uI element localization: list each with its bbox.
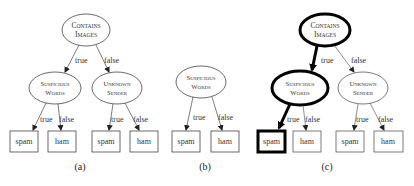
svg-text:SUSPICIOUS: SUSPICIOUS bbox=[41, 80, 70, 87]
svg-text:ham: ham bbox=[381, 137, 396, 146]
edge-label-false: false bbox=[104, 56, 120, 65]
node-unknown-sender: UNKNOWN SENDER bbox=[92, 72, 142, 104]
svg-text:SUSPICIOUS: SUSPICIOUS bbox=[286, 80, 315, 87]
edge-label-false: false bbox=[59, 115, 75, 124]
leaf-ham: ham bbox=[293, 131, 321, 152]
panel-label-c: (c) bbox=[321, 161, 332, 173]
edge-label-false: false bbox=[218, 113, 234, 122]
node-contains-images-highlighted: CONTAINS IMAGES bbox=[300, 14, 350, 46]
edge-label-true: true bbox=[356, 115, 369, 124]
leaf-spam: spam bbox=[92, 131, 120, 152]
node-suspicious-words-highlighted: SUSPICIOUS WORDS bbox=[272, 71, 328, 105]
leaf-spam-highlighted: spam bbox=[258, 131, 285, 152]
svg-text:WORDS: WORDS bbox=[191, 83, 211, 90]
edge-label-false: false bbox=[378, 115, 394, 124]
edge-label-true: true bbox=[193, 113, 206, 122]
svg-text:ham: ham bbox=[300, 137, 315, 146]
leaf-ham: ham bbox=[211, 131, 239, 152]
edge-label-true: true bbox=[40, 115, 53, 124]
panel-label-a: (a) bbox=[74, 161, 85, 173]
edge-label-true: true bbox=[321, 56, 334, 65]
node-suspicious-words: SUSPICIOUS WORDS bbox=[176, 66, 226, 98]
leaf-spam: spam bbox=[172, 131, 200, 152]
leaf-ham: ham bbox=[374, 131, 403, 152]
svg-text:ham: ham bbox=[218, 137, 233, 146]
svg-text:ham: ham bbox=[55, 137, 70, 146]
leaf-ham: ham bbox=[130, 131, 158, 152]
svg-text:CONTAINS: CONTAINS bbox=[310, 21, 339, 30]
leaf-spam: spam bbox=[10, 131, 38, 152]
edge-label-true: true bbox=[287, 115, 300, 124]
leaf-ham: ham bbox=[48, 131, 76, 152]
svg-text:spam: spam bbox=[98, 137, 116, 146]
panel-a: CONTAINS IMAGES true false SUSPICIOUS WO… bbox=[10, 14, 158, 173]
svg-text:spam: spam bbox=[178, 137, 196, 146]
svg-text:ham: ham bbox=[137, 137, 152, 146]
decision-tree-figure: CONTAINS IMAGES true false SUSPICIOUS WO… bbox=[0, 0, 414, 186]
svg-text:IMAGES: IMAGES bbox=[75, 30, 97, 39]
svg-text:SUSPICIOUS: SUSPICIOUS bbox=[187, 74, 216, 81]
svg-text:SENDER: SENDER bbox=[107, 89, 128, 96]
svg-text:spam: spam bbox=[342, 137, 360, 146]
edge-label-false: false bbox=[351, 56, 367, 65]
panel-label-b: (b) bbox=[199, 161, 211, 173]
leaf-spam: spam bbox=[336, 131, 364, 152]
svg-text:SENDER: SENDER bbox=[353, 89, 374, 96]
svg-text:UNKNOWN: UNKNOWN bbox=[349, 80, 377, 87]
edge-label-true: true bbox=[111, 115, 124, 124]
svg-text:UNKNOWN: UNKNOWN bbox=[103, 80, 131, 87]
node-suspicious-words: SUSPICIOUS WORDS bbox=[29, 72, 81, 104]
svg-text:IMAGES: IMAGES bbox=[314, 30, 336, 39]
svg-text:CONTAINS: CONTAINS bbox=[71, 21, 100, 30]
edge-label-false: false bbox=[133, 115, 149, 124]
edge-true bbox=[186, 97, 193, 130]
svg-text:WORDS: WORDS bbox=[290, 89, 310, 96]
panel-b: SUSPICIOUS WORDS true false spam ham (b) bbox=[172, 66, 239, 173]
edge-label-true: true bbox=[75, 56, 88, 65]
svg-text:spam: spam bbox=[16, 137, 34, 146]
svg-text:WORDS: WORDS bbox=[45, 89, 65, 96]
edge-true-highlighted bbox=[312, 46, 317, 70]
panel-c: CONTAINS IMAGES true false SUSPICIOUS WO… bbox=[258, 14, 403, 173]
edge-label-false: false bbox=[305, 115, 321, 124]
node-contains-images: CONTAINS IMAGES bbox=[62, 14, 110, 46]
svg-text:spam: spam bbox=[263, 137, 281, 146]
node-unknown-sender: UNKNOWN SENDER bbox=[338, 72, 388, 104]
